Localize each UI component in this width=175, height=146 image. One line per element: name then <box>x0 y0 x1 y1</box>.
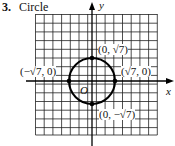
y-axis-arrow-icon <box>89 2 95 10</box>
point-left <box>67 79 72 84</box>
label-point-right: (√7, 0) <box>121 66 151 77</box>
point-bottom <box>90 102 95 107</box>
origin-label: O <box>80 85 88 96</box>
label-point-left: (−√7, 0) <box>20 66 56 77</box>
x-axis-label: x <box>166 86 171 97</box>
label-point-top: (0, √7) <box>98 44 128 55</box>
point-top <box>90 56 95 61</box>
point-right <box>113 79 118 84</box>
y-axis-label: y <box>99 0 104 11</box>
x-axis-arrow-icon <box>166 78 174 84</box>
label-point-bottom: (0, −√7) <box>99 109 135 120</box>
